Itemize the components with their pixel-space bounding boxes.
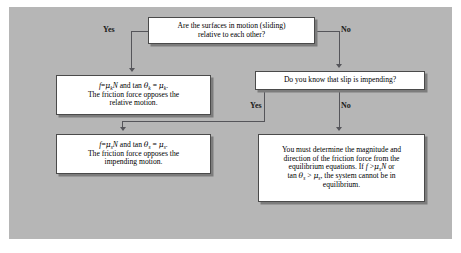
branch-label-yes-middle: Yes (250, 101, 262, 110)
kinetic-N: N (113, 81, 118, 90)
equilibrium-line3-or: or (388, 162, 394, 171)
connector-top-to-no-horizontal (315, 31, 340, 32)
arrowhead-into-equilibrium-box (336, 127, 342, 131)
connector-top-to-yes-horizontal (131, 31, 149, 32)
equilibrium-line5: equilibrium. (263, 181, 420, 190)
equilibrium-gt2: > (307, 171, 311, 180)
branch-label-yes-top: Yes (103, 25, 115, 34)
decision-box-slip-impending: Do you know that slip is impending? (255, 71, 425, 90)
equilibrium-tan: tan (287, 171, 296, 180)
friction-flowchart-figure: Yes No Yes No Are the surfaces in motion… (0, 0, 461, 253)
result-box-kinetic-friction: f=μkN and tan θk = μk. The friction forc… (56, 75, 211, 115)
static-period: . (166, 140, 168, 149)
connector-slip-yes-horizontal (122, 121, 265, 122)
equilibrium-f: f (366, 162, 368, 171)
equilibrium-line3-text: equilibrium equations. If (289, 162, 364, 171)
decision-box-surfaces-in-motion: Are the surfaces in motion (sliding) rel… (148, 17, 315, 44)
kinetic-conjunction: and tan (120, 81, 142, 90)
connector-top-to-no-vertical (339, 31, 340, 65)
decision-box-slip-line1: Do you know that slip is impending? (260, 76, 420, 85)
arrowhead-into-static-box (120, 127, 126, 131)
branch-label-no-top: No (341, 25, 351, 34)
arrowhead-into-slip-box (336, 64, 342, 68)
connector-slip-yes-vertical (264, 90, 265, 121)
static-line3: impending motion. (61, 158, 206, 167)
static-N: N (113, 140, 118, 149)
result-box-equilibrium-determination: You must determine the magnitude and dir… (258, 134, 425, 202)
connector-slip-no-vertical (339, 90, 340, 127)
static-conjunction: and tan (120, 140, 142, 149)
static-eq2: = (152, 140, 156, 149)
arrowhead-into-kinetic-box (129, 68, 135, 72)
decision-box-surfaces-line2: relative to each other? (153, 31, 310, 40)
equilibrium-N: N (381, 162, 386, 171)
kinetic-period: . (166, 81, 168, 90)
branch-label-no-middle: No (341, 101, 351, 110)
equilibrium-theta-subscript: s (303, 175, 305, 181)
kinetic-line3: relative motion. (61, 99, 206, 108)
equilibrium-line4-text: , the system cannot be in (321, 171, 396, 180)
connector-top-to-yes-vertical (131, 31, 132, 69)
kinetic-eq2: = (153, 81, 157, 90)
result-box-static-friction: f=μsN and tan θs = μs. The friction forc… (56, 134, 211, 174)
